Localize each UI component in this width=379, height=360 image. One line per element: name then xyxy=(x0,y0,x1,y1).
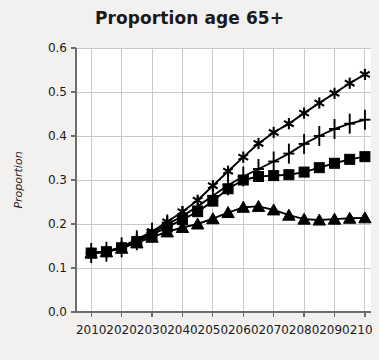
x-tick-label: 2040 xyxy=(167,323,198,337)
marker-square xyxy=(208,196,218,206)
x-tick-label: 2060 xyxy=(228,323,259,337)
marker-square xyxy=(314,163,324,173)
y-tick-label: 0.2 xyxy=(48,217,67,231)
x-tick-label: 2080 xyxy=(289,323,320,337)
plot-right-margin xyxy=(372,0,379,360)
y-tick-label: 0.5 xyxy=(48,85,67,99)
marker-square xyxy=(223,184,233,194)
marker-square xyxy=(284,170,294,180)
x-tick-label: 2020 xyxy=(106,323,137,337)
marker-square xyxy=(299,167,309,177)
y-tick-label: 0.0 xyxy=(48,305,67,319)
y-tick-label: 0.1 xyxy=(48,261,67,275)
x-tick-label: 2030 xyxy=(137,323,168,337)
marker-square xyxy=(253,171,263,181)
marker-square xyxy=(345,154,355,164)
chart-container: Proportion age 65+ 0.00.10.20.30.40.50.6… xyxy=(0,0,379,360)
marker-square xyxy=(360,152,370,162)
y-axis-title: Proportion xyxy=(12,151,25,208)
x-tick-label: 2050 xyxy=(198,323,229,337)
marker-square xyxy=(269,171,279,181)
x-tick-label: 2070 xyxy=(258,323,289,337)
marker-square xyxy=(330,158,340,168)
x-tick-label: 2010 xyxy=(76,323,107,337)
x-tick-label: 2090 xyxy=(319,323,350,337)
y-tick-label: 0.6 xyxy=(48,41,67,55)
chart-plot: 0.00.10.20.30.40.50.62010202020302040205… xyxy=(0,0,379,360)
y-tick-label: 0.3 xyxy=(48,173,67,187)
marker-square xyxy=(238,175,248,185)
marker-square xyxy=(193,207,203,217)
y-tick-label: 0.4 xyxy=(48,129,67,143)
